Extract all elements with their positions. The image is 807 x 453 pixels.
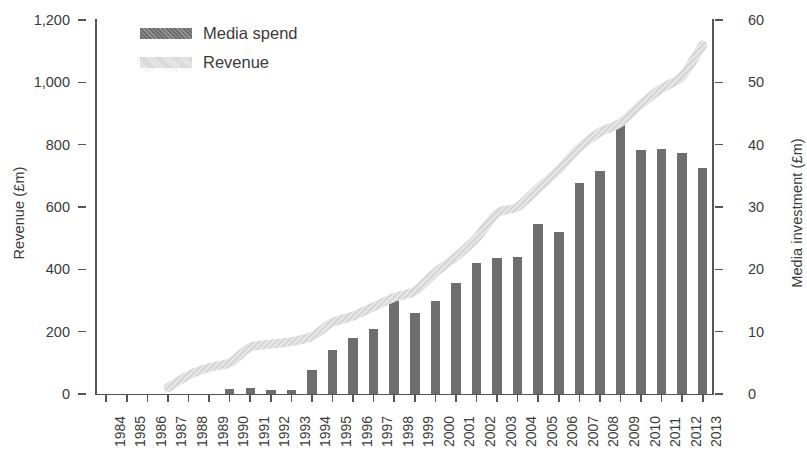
x-axis-tick-mark	[455, 394, 457, 402]
x-axis-tick-label-1993: 1993	[297, 416, 313, 447]
y-axis-left-tick-mark	[78, 269, 86, 271]
x-axis-tick-mark	[537, 394, 539, 402]
x-axis-tick-mark	[126, 394, 128, 402]
x-axis-tick-mark	[579, 394, 581, 402]
y-axis-right-tick-label: 50	[748, 74, 764, 90]
y-axis-right-ticks: 0102030405060	[730, 0, 790, 453]
x-axis-tick-mark	[476, 394, 478, 402]
revenue-media-spend-chart: Revenue (£m) Media investment (£m) 02004…	[0, 0, 807, 453]
x-axis-tick-mark	[517, 394, 519, 402]
y-axis-right-tick-mark	[715, 144, 723, 146]
x-axis-tick-mark	[496, 394, 498, 402]
x-axis-tick-label-2007: 2007	[585, 416, 601, 447]
y-axis-left-tick-label: 600	[46, 199, 70, 215]
x-axis-tick-mark	[311, 394, 313, 402]
x-axis-tick-label-2013: 2013	[708, 416, 724, 447]
x-axis-tick-label-2002: 2002	[482, 416, 498, 447]
legend-swatch-icon	[140, 57, 192, 68]
x-axis-tick-label-2010: 2010	[647, 416, 663, 447]
y-axis-left-tick-mark	[78, 393, 86, 395]
x-axis-tick-label-1994: 1994	[317, 416, 333, 447]
x-axis-tick-label-1999: 1999	[420, 416, 436, 447]
y-axis-right-tick-mark	[715, 269, 723, 271]
x-axis-tick-mark	[188, 394, 190, 402]
y-axis-left-ticks: 02004006008001,0001,200	[0, 0, 86, 453]
y-axis-right-tick-mark	[715, 206, 723, 208]
x-axis-tick-mark	[558, 394, 560, 402]
x-axis-tick-mark	[435, 394, 437, 402]
x-axis-tick-mark	[373, 394, 375, 402]
y-axis-right-tick-label: 40	[748, 137, 764, 153]
y-axis-left-tick-label: 0	[62, 386, 70, 402]
x-axis-tick-mark	[167, 394, 169, 402]
x-axis-tick-mark	[393, 394, 395, 402]
y-axis-left-tick-label: 200	[46, 324, 70, 340]
x-axis-tick-label-1998: 1998	[400, 416, 416, 447]
x-axis-tick-label-2005: 2005	[544, 416, 560, 447]
x-axis-tick-label-1984: 1984	[112, 416, 128, 447]
y-axis-right-tick-mark	[715, 331, 723, 333]
y-axis-right-tick-mark	[715, 82, 723, 84]
x-axis-tick-label-1992: 1992	[276, 416, 292, 447]
x-axis-tick-label-1989: 1989	[215, 416, 231, 447]
x-axis-tick-mark	[702, 394, 704, 402]
x-axis-tick-label-1996: 1996	[359, 416, 375, 447]
y-axis-right-title: Media investment (£m)	[789, 123, 805, 303]
revenue-line	[96, 20, 713, 394]
x-axis-tick-label-2001: 2001	[461, 416, 477, 447]
x-axis-tick-mark	[249, 394, 251, 402]
y-axis-left-tick-label: 400	[46, 261, 70, 277]
y-axis-left-tick-label: 1,200	[34, 12, 70, 28]
legend-item-revenue: Revenue	[140, 49, 297, 75]
x-axis-tick-label-1987: 1987	[173, 416, 189, 447]
x-axis-tick-label-1997: 1997	[379, 416, 395, 447]
y-axis-left-tick-mark	[78, 144, 86, 146]
x-axis-tick-mark	[599, 394, 601, 402]
y-axis-right-tick-mark	[715, 393, 723, 395]
y-axis-left-tick-mark	[78, 331, 86, 333]
y-axis-left-tick-mark	[78, 206, 86, 208]
x-axis-tick-mark	[414, 394, 416, 402]
x-axis-tick-mark	[291, 394, 293, 402]
y-axis-left-tick-mark	[78, 19, 86, 21]
x-axis-tick-label-2003: 2003	[503, 416, 519, 447]
x-axis-tick-mark	[270, 394, 272, 402]
legend-swatch-icon	[140, 28, 192, 39]
legend-label: Media spend	[203, 24, 297, 43]
x-axis-tick-label-1985: 1985	[132, 416, 148, 447]
x-axis-tick-label-1988: 1988	[194, 416, 210, 447]
x-axis-tick-mark	[681, 394, 683, 402]
x-axis-tick-mark	[640, 394, 642, 402]
x-axis-tick-label-2009: 2009	[626, 416, 642, 447]
y-axis-right-tick-mark	[715, 19, 723, 21]
legend-item-media-spend: Media spend	[140, 18, 297, 49]
x-axis-tick-mark	[105, 394, 107, 402]
x-axis-tick-label-2011: 2011	[667, 417, 683, 447]
x-axis-tick-mark	[147, 394, 149, 402]
y-axis-right-tick-label: 0	[748, 386, 756, 402]
x-axis-tick-mark	[661, 394, 663, 402]
legend-label: Revenue	[203, 53, 269, 72]
y-axis-right-tick-label: 20	[748, 261, 764, 277]
x-axis-tick-label-2000: 2000	[441, 416, 457, 447]
x-axis-tick-label-1991: 1991	[256, 416, 272, 447]
x-axis-tick-mark	[208, 394, 210, 402]
x-axis-tick-label-2008: 2008	[605, 416, 621, 447]
y-axis-right-tick-label: 60	[748, 12, 764, 28]
plot-area	[96, 20, 713, 394]
y-axis-left-tick-mark	[78, 82, 86, 84]
x-axis-tick-label-2012: 2012	[688, 416, 704, 447]
x-axis-tick-mark	[620, 394, 622, 402]
x-axis-labels: 1984198519861987198819891990199119921993…	[96, 400, 713, 453]
y-axis-right-tick-label: 10	[748, 324, 764, 340]
x-axis-tick-label-1995: 1995	[338, 416, 354, 447]
x-axis-tick-mark	[332, 394, 334, 402]
x-axis-tick-label-2006: 2006	[564, 416, 580, 447]
x-axis-tick-mark	[229, 394, 231, 402]
y-axis-right-tick-label: 30	[748, 199, 764, 215]
x-axis-tick-label-1986: 1986	[153, 416, 169, 447]
x-axis-tick-label-2004: 2004	[523, 416, 539, 447]
x-axis-tick-label-1990: 1990	[235, 416, 251, 447]
chart-legend: Media spendRevenue	[140, 18, 297, 75]
x-axis-tick-mark	[352, 394, 354, 402]
